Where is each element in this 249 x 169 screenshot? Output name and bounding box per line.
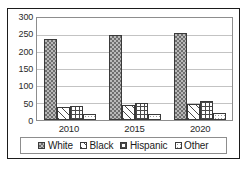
bar-groups: [37, 18, 232, 120]
legend-item-hispanic: Hispanic: [120, 140, 167, 151]
legend-label-other: Other: [184, 140, 209, 151]
legend-item-white: White: [38, 140, 73, 151]
bar-black-2020: [187, 104, 200, 120]
bar-group-2010: [44, 18, 96, 120]
chart-plot-area: 300 250 200 150 100 50 0: [8, 9, 239, 135]
bar-group-2020: [174, 18, 226, 120]
bar-other-2020: [213, 113, 226, 120]
legend-swatch-hispanic-icon: [120, 142, 127, 149]
y-axis-tick-label: 300: [19, 12, 33, 22]
legend-item-black: Black: [80, 140, 113, 151]
legend-swatch-other-icon: [175, 142, 182, 149]
chart-figure: 300 250 200 150 100 50 0: [7, 8, 240, 159]
y-axis-tick-label: 250: [19, 29, 33, 39]
y-axis-tick-label: 200: [19, 47, 33, 57]
x-axis-tick-label: 2015: [124, 123, 144, 134]
bar-white-2020: [174, 33, 187, 120]
x-axis-tick-label: 2020: [190, 123, 210, 134]
y-axis-tick-label: 50: [23, 99, 33, 109]
bar-other-2015: [148, 114, 161, 120]
y-axis-tick-label: 100: [19, 81, 33, 91]
bar-other-2010: [83, 114, 96, 120]
legend-swatch-black-icon: [80, 142, 87, 149]
x-axis: 2010 2015 2020: [36, 121, 233, 135]
y-axis-tick-label: 150: [19, 64, 33, 74]
legend-swatch-white-icon: [38, 142, 45, 149]
legend-item-other: Other: [175, 140, 209, 151]
bar-black-2015: [122, 105, 135, 120]
y-axis: 300 250 200 150 100 50 0: [8, 17, 36, 121]
legend-label-white: White: [48, 140, 73, 151]
legend-label-hispanic: Hispanic: [130, 140, 168, 151]
y-axis-tick-label: 0: [28, 116, 33, 126]
bar-white-2010: [44, 39, 57, 120]
bar-white-2015: [109, 35, 122, 120]
plot-frame: [36, 17, 233, 121]
bar-hispanic-2015: [135, 103, 148, 120]
x-axis-tick-label: 2010: [59, 123, 79, 134]
bar-hispanic-2020: [200, 101, 213, 120]
bar-black-2010: [57, 107, 70, 120]
bar-group-2015: [109, 18, 161, 120]
bar-hispanic-2010: [70, 106, 83, 120]
legend-label-black: Black: [90, 140, 114, 151]
chart-legend: White Black Hispanic Other: [20, 137, 227, 154]
